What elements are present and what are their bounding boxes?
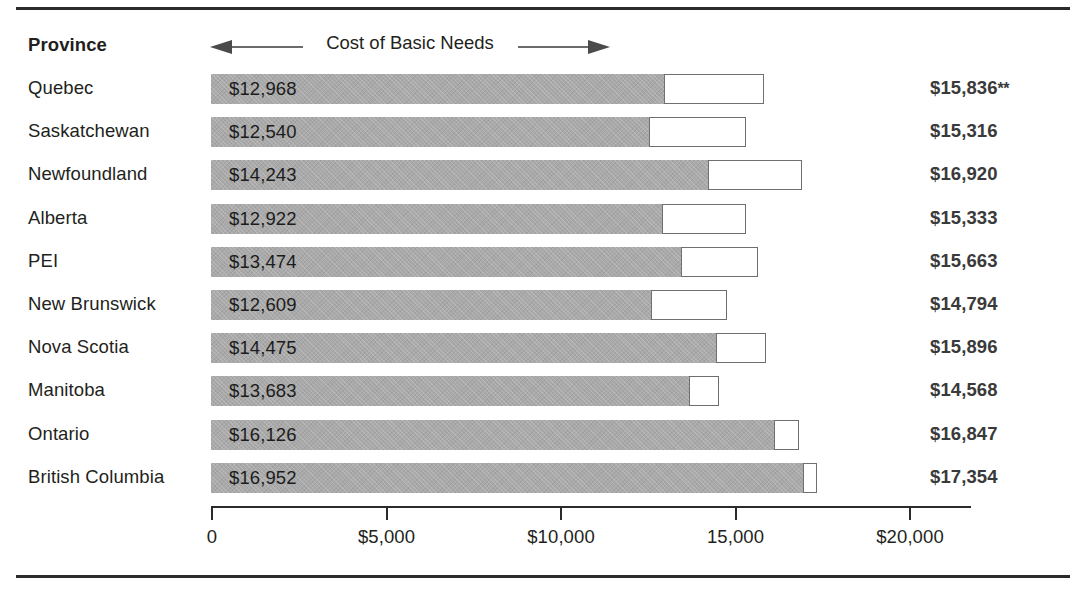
bar-segment-remainder [664, 74, 764, 104]
chart-row: British Columbia$16,952$17,354 [0, 463, 1085, 506]
stacked-bar: $13,683 [211, 376, 719, 406]
row-total-value: $14,568 [930, 379, 998, 401]
row-total-value: $17,354 [930, 466, 998, 488]
bar-segment-remainder [774, 420, 799, 450]
province-label: British Columbia [28, 466, 164, 488]
x-axis-tick-label: $10,000 [527, 526, 595, 548]
row-total-value: $16,920 [930, 163, 998, 185]
bar-value-label: $16,126 [229, 424, 297, 446]
bar-value-label: $14,243 [229, 164, 297, 186]
bar-value-label: $14,475 [229, 337, 297, 359]
row-total-value: $15,316 [930, 120, 998, 142]
chart-row: Nova Scotia$14,475$15,896 [0, 333, 1085, 376]
x-axis-tick-label: $20,000 [876, 526, 944, 548]
province-label: Alberta [28, 207, 87, 229]
province-label: New Brunswick [28, 293, 156, 315]
province-label: Quebec [28, 77, 93, 99]
stacked-bar: $12,540 [211, 117, 746, 147]
x-axis-tick [386, 506, 388, 520]
stacked-bar: $16,126 [211, 420, 799, 450]
chart-figure: Province Cost of Basic Needs Quebec$12,9… [0, 0, 1085, 597]
bar-segment-remainder [649, 117, 746, 147]
row-total-value: $14,794 [930, 293, 998, 315]
x-axis-tick-label: 0 [207, 526, 217, 548]
x-axis-line [211, 506, 971, 508]
bar-value-label: $13,683 [229, 380, 297, 402]
stacked-bar: $12,922 [211, 204, 746, 234]
footnote-marker: ** [998, 80, 1009, 97]
chart-row: Alberta$12,922$15,333 [0, 204, 1085, 247]
bar-segment-remainder [681, 247, 757, 277]
stacked-bar: $16,952 [211, 463, 817, 493]
stacked-bar: $14,475 [211, 333, 766, 363]
bar-value-label: $12,540 [229, 121, 297, 143]
row-total-value: $15,836** [930, 77, 1009, 99]
x-axis-tick [211, 506, 213, 520]
bar-segment-remainder [689, 376, 720, 406]
bar-value-label: $12,609 [229, 294, 297, 316]
row-total-value: $15,333 [930, 207, 998, 229]
stacked-bar: $14,243 [211, 160, 802, 190]
row-total-value: $15,896 [930, 336, 998, 358]
x-axis-tick-label: 15,000 [707, 526, 764, 548]
bar-value-label: $16,952 [229, 467, 297, 489]
x-axis-tick-label: $5,000 [358, 526, 415, 548]
bar-segment-remainder [716, 333, 766, 363]
province-label: PEI [28, 250, 58, 272]
bar-segment-remainder [708, 160, 801, 190]
chart-row: Newfoundland$14,243$16,920 [0, 160, 1085, 203]
chart-row: New Brunswick$12,609$14,794 [0, 290, 1085, 333]
bar-segment-remainder [803, 463, 817, 493]
x-axis-tick [909, 506, 911, 520]
bar-value-label: $12,922 [229, 208, 297, 230]
bar-segment-remainder [662, 204, 746, 234]
chart-row: Saskatchewan$12,540$15,316 [0, 117, 1085, 160]
province-label: Nova Scotia [28, 336, 129, 358]
stacked-bar: $12,968 [211, 74, 764, 104]
row-total-value: $15,663 [930, 250, 998, 272]
province-label: Newfoundland [28, 163, 147, 185]
x-axis-tick [735, 506, 737, 520]
chart-row: Ontario$16,126$16,847 [0, 420, 1085, 463]
bar-segment-basic-needs [211, 463, 803, 493]
cost-of-basic-needs-axis-arrow: Cost of Basic Needs [210, 34, 610, 58]
province-label: Manitoba [28, 379, 105, 401]
bar-value-label: $12,968 [229, 78, 297, 100]
chart-row: Manitoba$13,683$14,568 [0, 376, 1085, 419]
axis-arrow-label-text: Cost of Basic Needs [303, 32, 518, 54]
province-label: Ontario [28, 423, 89, 445]
x-axis-tick [560, 506, 562, 520]
province-label: Saskatchewan [28, 120, 150, 142]
chart-row: Quebec$12,968$15,836** [0, 74, 1085, 117]
stacked-bar: $12,609 [211, 290, 727, 320]
bar-value-label: $13,474 [229, 251, 297, 273]
stacked-bar: $13,474 [211, 247, 758, 277]
bar-segment-remainder [651, 290, 727, 320]
chart-row: PEI$13,474$15,663 [0, 247, 1085, 290]
row-total-value: $16,847 [930, 423, 998, 445]
